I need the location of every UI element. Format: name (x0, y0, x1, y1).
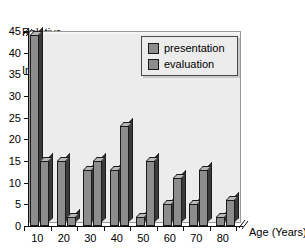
legend-item-presentation: presentation (148, 41, 225, 55)
y-tick-label: 10 (9, 178, 21, 189)
bar-face (173, 178, 182, 226)
bar-face (110, 170, 119, 226)
x-tick-label: 60 (164, 232, 176, 244)
bar-side (208, 162, 212, 222)
x-tick-mark (24, 226, 25, 231)
bar-face (199, 170, 208, 226)
x-tick-mark (51, 226, 52, 231)
x-tick-label: 30 (84, 232, 96, 244)
x-tick-mark (130, 226, 131, 231)
x-tick-label: 10 (31, 232, 43, 244)
bar-face (226, 200, 235, 226)
bar-face (136, 217, 145, 226)
bar-face (40, 161, 49, 226)
x-tick-label: 70 (190, 232, 202, 244)
x-tick-label: 20 (58, 232, 70, 244)
bar-presentation-30 (83, 170, 92, 226)
bar-presentation-50 (136, 217, 145, 226)
bar-evaluation-50 (146, 161, 155, 226)
y-tick-label: 30 (9, 91, 21, 102)
x-tick-label: 40 (111, 232, 123, 244)
y-axis-tick-labels: 051015202530354045 (0, 0, 28, 252)
bar-evaluation-30 (93, 161, 102, 226)
y-axis-line (28, 30, 29, 226)
bar-face (216, 217, 225, 226)
bar-evaluation-80 (226, 200, 235, 226)
bar-face (146, 161, 155, 226)
bar-face (67, 217, 76, 226)
bar-face (163, 204, 172, 226)
bar-face (189, 204, 198, 226)
bar-side (66, 153, 70, 222)
y-tick-label: 5 (15, 199, 21, 210)
bar-presentation-70 (189, 204, 198, 226)
y-tick-label: 45 (9, 26, 21, 37)
legend-swatch-presentation (148, 43, 159, 54)
y-tick-label: 25 (9, 113, 21, 124)
bar-face (93, 161, 102, 226)
x-tick-label: 50 (137, 232, 149, 244)
bar-face (57, 161, 66, 226)
plot-top-edge (30, 32, 240, 34)
x-axis-title: Age (Years) (249, 226, 305, 238)
bar-side (49, 153, 53, 222)
bar-presentation-20 (57, 161, 66, 226)
legend-swatch-evaluation (148, 59, 159, 70)
x-tick-label: 80 (217, 232, 229, 244)
bar-presentation-60 (163, 204, 172, 226)
x-tick-mark (157, 226, 158, 231)
y-tick-label: 40 (9, 48, 21, 59)
bar-evaluation-60 (173, 178, 182, 226)
bar-presentation-10 (30, 35, 39, 226)
bar-face (30, 35, 39, 226)
bar-side (155, 153, 159, 222)
y-tick-label: 15 (9, 156, 21, 167)
x-tick-mark (77, 226, 78, 231)
bar-presentation-40 (110, 170, 119, 226)
bar-side (129, 118, 133, 222)
x-tick-mark (183, 226, 184, 231)
bar-evaluation-20 (67, 217, 76, 226)
bar-face (120, 126, 129, 226)
x-tick-mark (210, 226, 211, 231)
x-tick-mark (104, 226, 105, 231)
bar-face (83, 170, 92, 226)
chart-root: Relative Incidence 051015202530354045 10… (0, 0, 305, 252)
bar-evaluation-40 (120, 126, 129, 226)
legend-label-presentation: presentation (164, 43, 225, 54)
y-tick-label: 20 (9, 134, 21, 145)
bar-side (102, 153, 106, 222)
chart-legend: presentation evaluation (141, 36, 238, 76)
bar-presentation-80 (216, 217, 225, 226)
legend-label-evaluation: evaluation (164, 59, 214, 70)
y-tick-label: 35 (9, 69, 21, 80)
bar-evaluation-70 (199, 170, 208, 226)
legend-item-evaluation: evaluation (148, 57, 214, 71)
bar-evaluation-10 (40, 161, 49, 226)
bar-side (182, 170, 186, 222)
x-axis-break-icon (237, 219, 249, 229)
